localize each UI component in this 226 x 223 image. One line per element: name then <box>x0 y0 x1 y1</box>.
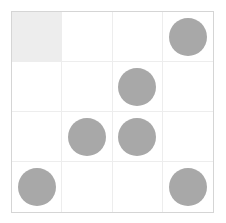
grid-cell-r1-c2[interactable] <box>62 12 112 62</box>
grid-cell-r1-c3[interactable] <box>113 12 163 62</box>
grid-cell-r2-c2[interactable] <box>62 62 112 112</box>
circle-piece[interactable] <box>118 68 156 106</box>
grid-cell-r4-c2[interactable] <box>62 162 112 212</box>
grid-cell-r4-c4[interactable] <box>163 162 213 212</box>
grid-cell-r3-c4[interactable] <box>163 112 213 162</box>
grid-cell-r2-c3[interactable] <box>113 62 163 112</box>
grid-cell-r2-c4[interactable] <box>163 62 213 112</box>
board-grid <box>12 12 213 212</box>
grid-cell-r2-c1[interactable] <box>12 62 62 112</box>
circle-piece[interactable] <box>169 18 207 56</box>
grid-cell-r1-c4[interactable] <box>163 12 213 62</box>
circle-piece[interactable] <box>68 118 106 156</box>
grid-cell-r3-c3[interactable] <box>113 112 163 162</box>
circle-piece[interactable] <box>18 168 56 206</box>
grid-board[interactable] <box>11 11 214 213</box>
grid-cell-r3-c2[interactable] <box>62 112 112 162</box>
grid-cell-r1-c1[interactable] <box>12 12 62 62</box>
grid-cell-r4-c3[interactable] <box>113 162 163 212</box>
circle-piece[interactable] <box>169 168 207 206</box>
grid-cell-r4-c1[interactable] <box>12 162 62 212</box>
grid-cell-r3-c1[interactable] <box>12 112 62 162</box>
circle-piece[interactable] <box>118 118 156 156</box>
